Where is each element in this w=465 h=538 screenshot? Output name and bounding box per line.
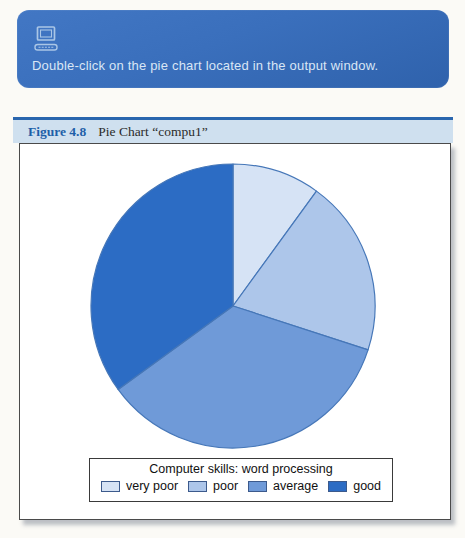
legend-label: average [273,479,318,493]
figure-label: Figure 4.8 [28,124,86,140]
legend-item-very-poor: very poor [101,479,178,493]
legend-swatch-good [328,481,347,492]
page: Double-click on the pie chart located in… [0,0,465,538]
instruction-banner: Double-click on the pie chart located in… [17,10,449,88]
figure-caption: Figure 4.8 Pie Chart “compu1” [13,117,453,143]
legend-items: very poorpooraveragegood [90,479,392,493]
legend-item-good: good [328,479,381,493]
computer-icon [32,25,60,53]
legend-item-poor: poor [188,479,238,493]
instruction-text: Double-click on the pie chart located in… [32,58,439,73]
legend-swatch-very-poor [101,481,120,492]
legend-label: good [353,479,381,493]
legend-swatch-average [248,481,267,492]
figure-title: Pie Chart “compu1” [98,124,207,140]
legend-item-average: average [248,479,318,493]
legend-swatch-poor [188,481,207,492]
chart-legend: Computer skills: word processing very po… [89,458,393,502]
legend-label: very poor [126,479,178,493]
legend-label: poor [213,479,238,493]
legend-title: Computer skills: word processing [90,462,392,476]
chart-panel: Computer skills: word processing very po… [19,143,451,520]
